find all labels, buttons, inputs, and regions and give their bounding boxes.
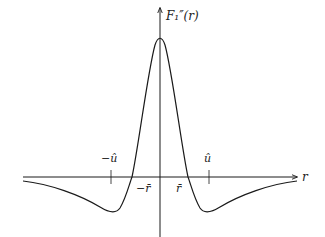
function-plot: F₁″(r) r −û û −r̄ r̄ (0, 0, 325, 237)
x-axis-label: r (302, 170, 309, 184)
y-axis-label: F₁″(r) (165, 9, 199, 23)
label-neg-r-bar: −r̄ (136, 182, 152, 195)
label-u-hat: û (204, 152, 211, 165)
label-neg-u-hat: −û (101, 152, 117, 165)
label-r-bar: r̄ (176, 182, 182, 195)
